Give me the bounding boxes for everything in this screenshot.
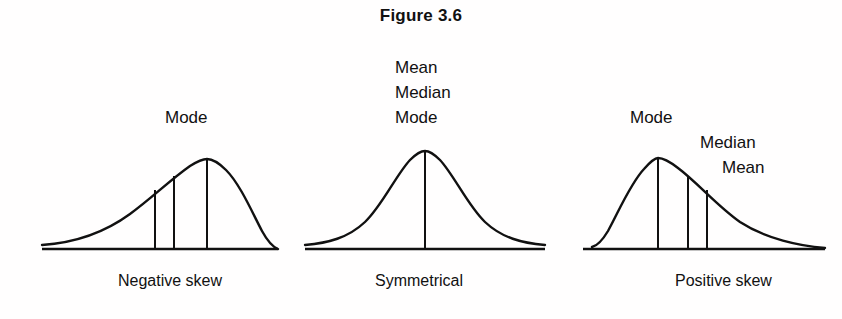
negative-skew-caption: Negative skew	[118, 273, 222, 289]
positive-skew-mean-label: Mean	[722, 159, 765, 176]
panel-negative-skew: Mean Median Mode Negative skew	[0, 0, 300, 319]
positive-skew-mode-label: Mode	[630, 109, 673, 126]
symmetrical-caption: Symmetrical	[375, 273, 463, 289]
symmetrical-median-label: Median	[395, 84, 451, 101]
symmetrical-mean-label: Mean	[395, 59, 438, 76]
negative-skew-curve	[42, 159, 278, 249]
symmetrical-mode-label: Mode	[395, 109, 438, 126]
figure-container: Figure 3.6 Mean Median Mode Negative ske…	[0, 0, 842, 319]
negative-skew-mode-label: Mode	[165, 109, 208, 126]
panel-positive-skew: Mode Median Mean Positive skew	[560, 0, 842, 319]
positive-skew-caption: Positive skew	[675, 273, 772, 289]
panel-symmetrical: Mean Median Mode Symmetrical	[295, 0, 560, 319]
positive-skew-curve	[592, 158, 825, 248]
positive-skew-median-label: Median	[700, 134, 756, 151]
